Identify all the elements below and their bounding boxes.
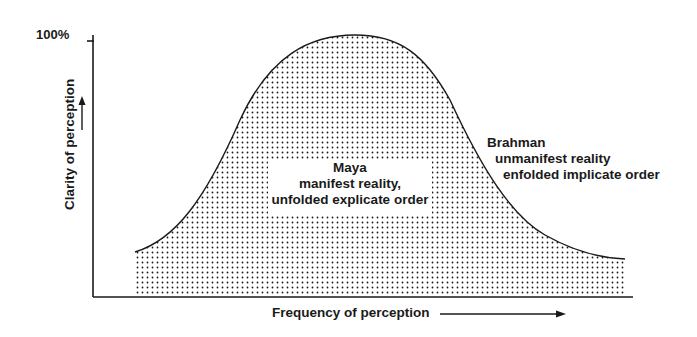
- maya-region-label: Maya manifest reality, unfolded explicat…: [268, 160, 432, 214]
- maya-title: Maya: [268, 160, 432, 176]
- y-arrow-head-icon: [79, 96, 86, 105]
- brahman-title: Brahman: [487, 135, 660, 151]
- brahman-subtitle-1: unmanifest reality: [487, 151, 660, 167]
- brahman-subtitle-2: enfolded implicate order: [487, 167, 660, 183]
- brahman-region-label: Brahman unmanifest reality enfolded impl…: [487, 135, 660, 183]
- x-arrow-head-icon: [556, 311, 566, 318]
- maya-subtitle-1: manifest reality,: [268, 176, 432, 192]
- x-axis-label: Frequency of perception: [272, 305, 430, 321]
- y-axis-label: Clarity of perception: [62, 79, 77, 210]
- y-axis-top-tick-label: 100%: [36, 27, 69, 43]
- maya-subtitle-2: unfolded explicate order: [268, 192, 432, 208]
